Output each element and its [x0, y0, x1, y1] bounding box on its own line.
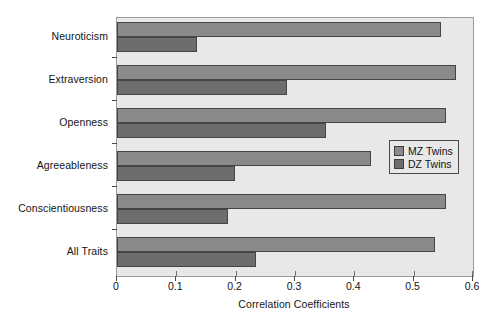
bar-extraversion-mz-twins [117, 65, 456, 80]
bar-neuroticism-mz-twins [117, 22, 441, 37]
legend-swatch-icon [394, 146, 404, 156]
bar-openness-dz-twins [117, 123, 326, 138]
y-axis-tick [112, 100, 117, 101]
bar-agreeableness-dz-twins [117, 166, 235, 181]
legend-item-mz-twins: MZ Twins [394, 144, 453, 157]
y-label-neuroticism: Neuroticism [51, 30, 108, 42]
y-axis-tick [112, 229, 117, 230]
y-axis-tick [112, 143, 117, 144]
x-tick-label: 0.4 [346, 280, 361, 292]
y-axis-category-labels: NeuroticismExtraversionOpennessAgreeable… [0, 17, 112, 275]
legend-label: MZ Twins [408, 145, 453, 157]
bar-all-traits-dz-twins [117, 252, 256, 267]
x-tick-label: 0.2 [227, 280, 242, 292]
y-label-openness: Openness [59, 116, 108, 128]
chart-legend: MZ TwinsDZ Twins [389, 140, 459, 174]
y-label-extraversion: Extraversion [48, 73, 108, 85]
bar-neuroticism-dz-twins [117, 37, 197, 52]
x-axis-title: Correlation Coefficients [116, 298, 472, 310]
x-tick-label: 0.5 [405, 280, 420, 292]
y-label-conscientiousness: Conscientiousness [18, 202, 108, 214]
legend-swatch-icon [394, 159, 404, 169]
bar-extraversion-dz-twins [117, 80, 287, 95]
legend-item-dz-twins: DZ Twins [394, 157, 453, 170]
y-axis-tick [112, 186, 117, 187]
y-label-all-traits: All Traits [67, 245, 108, 257]
bar-conscientiousness-dz-twins [117, 209, 228, 224]
bar-conscientiousness-mz-twins [117, 194, 446, 209]
x-tick-label: 0 [113, 280, 119, 292]
bar-openness-mz-twins [117, 108, 446, 123]
x-tick-label: 0.1 [168, 280, 183, 292]
bar-agreeableness-mz-twins [117, 151, 371, 166]
correlation-coefficients-bar-chart: NeuroticismExtraversionOpennessAgreeable… [0, 0, 503, 323]
y-label-agreeableness: Agreeableness [37, 159, 108, 171]
legend-label: DZ Twins [408, 158, 452, 170]
bar-all-traits-mz-twins [117, 237, 435, 252]
x-tick-label: 0.6 [465, 280, 480, 292]
x-tick-label: 0.3 [287, 280, 302, 292]
y-axis-tick [112, 57, 117, 58]
